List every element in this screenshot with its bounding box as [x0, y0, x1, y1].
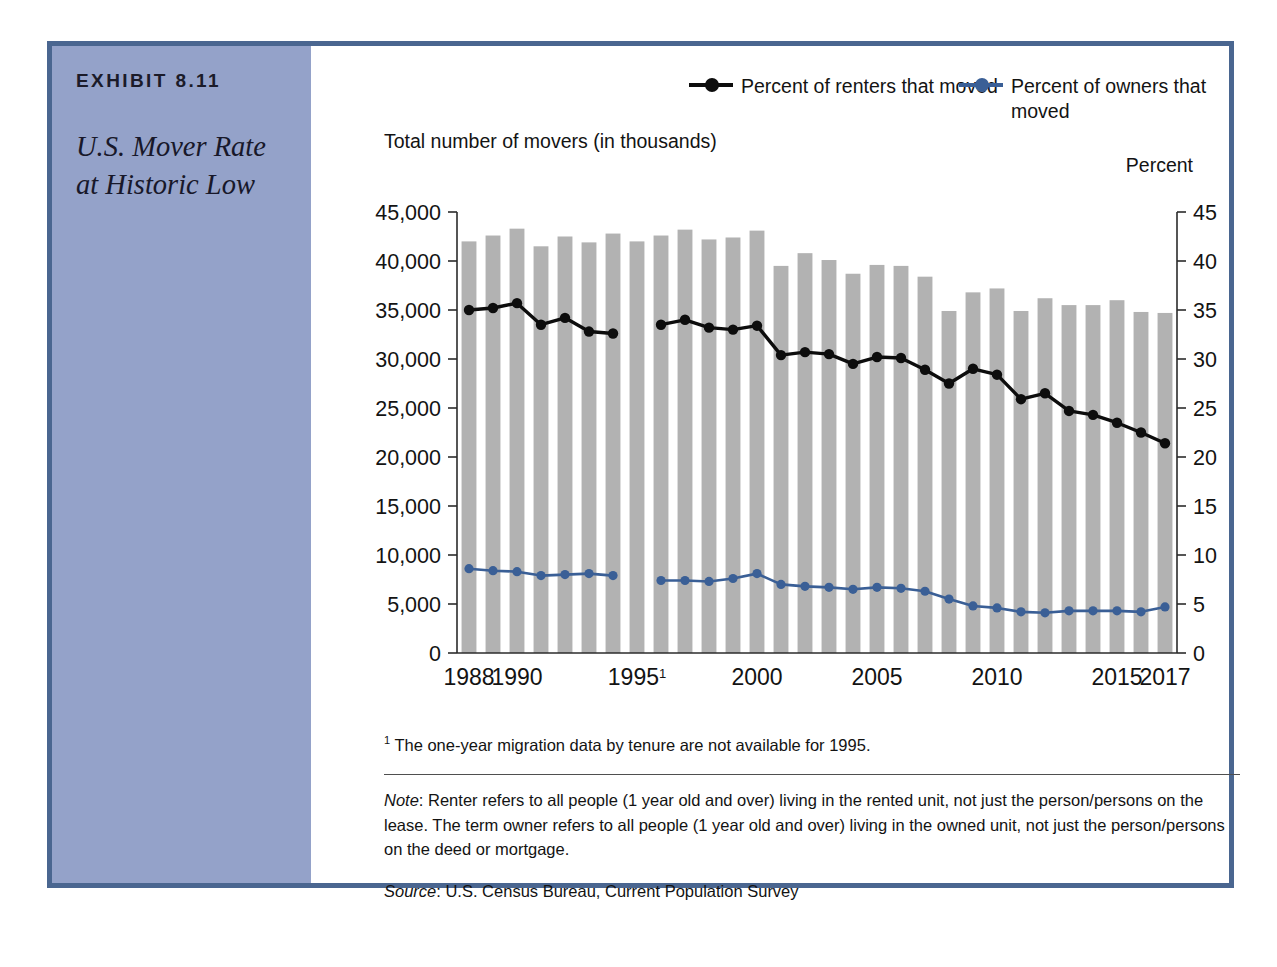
xtick-2005: 2005 [851, 664, 902, 690]
xtick-1988: 1988 [443, 664, 494, 690]
point-owners-1997 [680, 576, 689, 585]
exhibit-number: EXHIBIT 8.11 [76, 70, 221, 92]
point-owners-2012 [1040, 608, 1049, 617]
point-renters-2013 [1064, 406, 1074, 416]
point-owners-1999 [728, 574, 737, 583]
ytick-right-10: 10 [1193, 544, 1217, 568]
point-renters-2012 [1040, 388, 1050, 398]
point-owners-1996 [656, 576, 665, 585]
ytick-left-40000: 40,000 [375, 250, 441, 274]
ytick-left-15000: 15,000 [375, 495, 441, 519]
ytick-left-20000: 20,000 [375, 446, 441, 470]
point-renters-2002 [800, 347, 810, 357]
ytick-left-5000: 5,000 [387, 593, 441, 617]
point-owners-1988 [464, 564, 473, 573]
point-renters-2007 [920, 365, 930, 375]
bar-2001 [774, 266, 789, 653]
point-owners-2011 [1016, 607, 1025, 616]
point-renters-2008 [944, 378, 954, 388]
bar-1990 [510, 229, 525, 653]
xtick-1990: 1990 [491, 664, 542, 690]
bar-2000 [750, 231, 765, 653]
footnote-marker: 1 [384, 734, 390, 746]
bar-2012 [1038, 298, 1053, 653]
point-owners-2013 [1064, 606, 1073, 615]
chart-source: Source: U.S. Census Bureau, Current Popu… [384, 882, 1244, 901]
note-text: : Renter refers to all people (1 year ol… [384, 791, 1225, 858]
bar-2004 [846, 274, 861, 653]
bar-1995 [630, 241, 645, 653]
point-renters-2011 [1016, 394, 1026, 404]
footnote-text: The one-year migration data by tenure ar… [394, 736, 870, 754]
bar-2007 [918, 277, 933, 653]
bar-2016 [1134, 312, 1149, 653]
point-owners-1991 [536, 571, 545, 580]
point-owners-2004 [848, 585, 857, 594]
ytick-right-15: 15 [1193, 495, 1217, 519]
exhibit-sidebar: EXHIBIT 8.11 U.S. Mover Rate at Historic… [52, 46, 311, 883]
note-prefix: Note [384, 791, 419, 809]
point-owners-1994 [608, 571, 617, 580]
ytick-right-30: 30 [1193, 348, 1217, 372]
point-owners-2008 [944, 595, 953, 604]
point-owners-1990 [512, 567, 521, 576]
note-divider [384, 774, 1240, 775]
point-owners-2014 [1088, 606, 1097, 615]
point-owners-2006 [896, 584, 905, 593]
point-renters-1999 [728, 324, 738, 334]
bar-1997 [678, 230, 693, 653]
exhibit-frame: EXHIBIT 8.11 U.S. Mover Rate at Historic… [47, 41, 1234, 888]
source-text: : U.S. Census Bureau, Current Population… [436, 882, 798, 900]
bar-1988 [462, 241, 477, 653]
point-owners-2010 [992, 603, 1001, 612]
point-renters-2003 [824, 349, 834, 359]
point-renters-2009 [968, 364, 978, 374]
bar-2015 [1110, 300, 1125, 653]
bar-2014 [1086, 305, 1101, 653]
bar-2017 [1158, 313, 1173, 653]
chart-panel: Percent of renters that moved Percent of… [311, 46, 1229, 883]
bar-2009 [966, 292, 981, 653]
point-renters-1988 [464, 305, 474, 315]
point-renters-2006 [896, 353, 906, 363]
ytick-right-5: 5 [1193, 593, 1205, 617]
bar-2003 [822, 260, 837, 653]
ytick-right-25: 25 [1193, 397, 1217, 421]
point-renters-2001 [776, 350, 786, 360]
xtick-1995: 19951 [608, 664, 666, 690]
ytick-left-25000: 25,000 [375, 397, 441, 421]
point-owners-2005 [872, 583, 881, 592]
point-renters-1994 [608, 328, 618, 338]
bar-1993 [582, 242, 597, 653]
point-renters-1996 [656, 320, 666, 330]
point-owners-1998 [704, 577, 713, 586]
point-owners-2001 [776, 580, 785, 589]
point-renters-2014 [1088, 410, 1098, 420]
exhibit-title: U.S. Mover Rate at Historic Low [76, 128, 291, 204]
ytick-right-45: 45 [1193, 201, 1217, 225]
point-renters-2000 [752, 320, 762, 330]
bar-2005 [870, 265, 885, 653]
point-renters-1989 [488, 303, 498, 313]
point-owners-2015 [1112, 606, 1121, 615]
ytick-left-45000: 45,000 [375, 201, 441, 225]
bar-2013 [1062, 305, 1077, 653]
ytick-left-30000: 30,000 [375, 348, 441, 372]
point-owners-2000 [752, 569, 761, 578]
chart-note: Note: Renter refers to all people (1 yea… [384, 788, 1244, 862]
ytick-right-20: 20 [1193, 446, 1217, 470]
xtick-2000: 2000 [731, 664, 782, 690]
point-renters-2004 [848, 359, 858, 369]
bar-1994 [606, 234, 621, 653]
bar-1999 [726, 237, 741, 653]
point-renters-1990 [512, 298, 522, 308]
point-owners-2017 [1160, 602, 1169, 611]
bar-1998 [702, 239, 717, 653]
ytick-left-0: 0 [429, 642, 441, 666]
point-renters-1997 [680, 315, 690, 325]
point-owners-2009 [968, 601, 977, 610]
point-renters-1991 [536, 320, 546, 330]
ytick-left-10000: 10,000 [375, 544, 441, 568]
point-renters-2016 [1136, 427, 1146, 437]
bar-2010 [990, 288, 1005, 653]
